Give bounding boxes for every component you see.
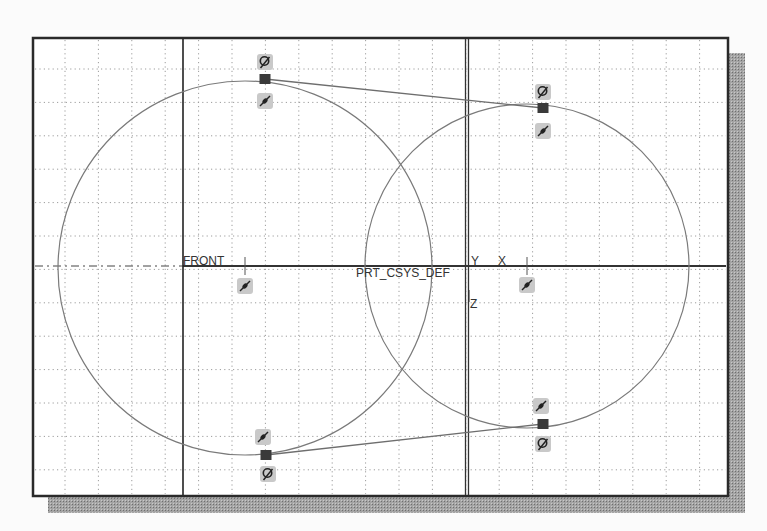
point-on-entity-constraint-icon[interactable]: [535, 123, 551, 139]
point-on-entity-constraint-icon[interactable]: [519, 277, 535, 293]
csys-label: PRT_CSYS_DEF: [356, 267, 450, 279]
sketch-canvas[interactable]: FRONT PRT_CSYS_DEF Y X Z: [0, 0, 767, 531]
tangent-point-handle[interactable]: [261, 450, 272, 460]
shadow-right: [728, 53, 745, 513]
tangent-point-handle[interactable]: [260, 74, 271, 84]
tangent-constraint-icon[interactable]: [257, 54, 273, 70]
point-on-entity-constraint-icon[interactable]: [257, 93, 273, 109]
point-on-entity-constraint-icon[interactable]: [533, 398, 549, 414]
tangent-constraint-icon[interactable]: [535, 436, 551, 452]
point-on-entity-constraint-icon[interactable]: [255, 429, 271, 445]
y-axis-label: Y: [471, 255, 479, 267]
point-on-entity-constraint-icon[interactable]: [237, 278, 253, 294]
tangent-constraint-icon[interactable]: [260, 466, 276, 482]
x-axis-label: X: [498, 255, 506, 267]
tangent-point-handle[interactable]: [538, 103, 549, 113]
tangent-point-handle[interactable]: [538, 419, 549, 429]
tangent-constraint-icon[interactable]: [535, 84, 551, 100]
shadow-bottom: [48, 496, 745, 513]
z-axis-label: Z: [470, 298, 477, 310]
front-plane-label: FRONT: [183, 255, 224, 267]
